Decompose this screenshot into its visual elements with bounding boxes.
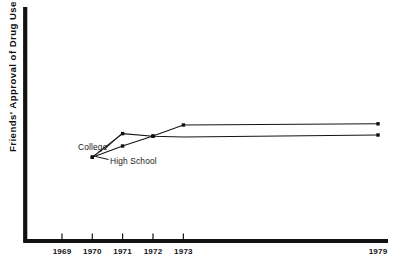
leader-line-high-school bbox=[96, 157, 109, 160]
data-point-high-school-1973 bbox=[182, 123, 185, 126]
data-point-high-school-1979 bbox=[376, 122, 379, 125]
x-axis-tick-labels: 1969 1970 1971 1972 1973 1979 bbox=[53, 247, 388, 256]
series-line-high-school bbox=[92, 124, 378, 157]
data-point-college-1970 bbox=[91, 156, 94, 159]
series-label-college: College bbox=[78, 142, 108, 152]
series-high-school bbox=[91, 122, 380, 159]
x-tick-label-1973: 1973 bbox=[174, 247, 193, 256]
data-point-college-1972 bbox=[151, 135, 154, 138]
x-tick-label-1970: 1970 bbox=[83, 247, 102, 256]
x-tick-label-1971: 1971 bbox=[113, 247, 132, 256]
chart-figure: 1969 1970 1971 1972 1973 1979 Friends' A… bbox=[0, 0, 397, 263]
x-tick-label-1969: 1969 bbox=[53, 247, 72, 256]
x-tick-label-1972: 1972 bbox=[144, 247, 163, 256]
series-line-college bbox=[92, 134, 378, 158]
data-point-college-1971 bbox=[121, 132, 124, 135]
line-chart-canvas: 1969 1970 1971 1972 1973 1979 Friends' A… bbox=[0, 0, 397, 263]
series-label-high-school: High School bbox=[110, 156, 157, 166]
data-point-high-school-1971 bbox=[121, 144, 124, 147]
data-point-college-1979 bbox=[376, 133, 379, 136]
y-axis-title: Friends' Approval of Drug Use bbox=[7, 1, 18, 152]
x-tick-label-1979: 1979 bbox=[369, 247, 388, 256]
x-axis-ticks bbox=[62, 234, 183, 240]
